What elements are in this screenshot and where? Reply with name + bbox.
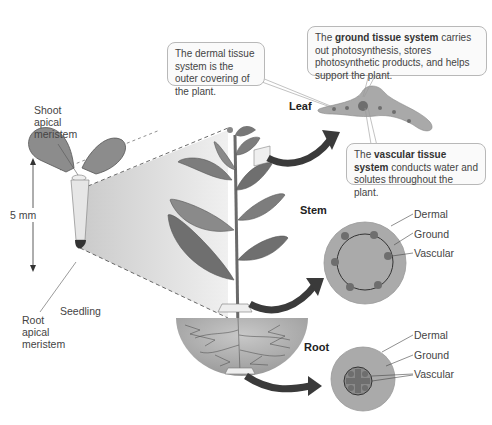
root-ground-label: Ground bbox=[414, 349, 449, 361]
dermal-callout: The dermal tissue system is the outer co… bbox=[167, 42, 265, 86]
stem-label: Stem bbox=[300, 204, 327, 216]
ground-callout: The ground tissue system carries out pho… bbox=[307, 26, 487, 76]
label-line: meristem bbox=[22, 338, 65, 350]
label-line: Shoot bbox=[34, 104, 77, 116]
callout-text: The bbox=[315, 32, 335, 43]
root-dermal-label: Dermal bbox=[414, 329, 448, 341]
label-line: meristem bbox=[34, 128, 77, 140]
label-line: apical bbox=[34, 116, 77, 128]
label-line: apical bbox=[22, 326, 65, 338]
seedling-label: Seedling bbox=[60, 305, 101, 317]
arrow-to-root bbox=[246, 376, 322, 396]
root-label: Root bbox=[304, 341, 329, 353]
stem-vascular-label: Vascular bbox=[414, 247, 454, 259]
leaf-cross-section bbox=[318, 86, 432, 131]
leaf-label: Leaf bbox=[289, 100, 312, 112]
stem-cross-section bbox=[324, 214, 413, 304]
arrow-to-stem bbox=[250, 278, 324, 310]
callout-text: The bbox=[354, 149, 374, 160]
root-system-illustration bbox=[176, 318, 308, 376]
root-apical-meristem-label: Root apical meristem bbox=[22, 314, 65, 350]
scale-label: 5 mm bbox=[10, 208, 36, 222]
shoot-apical-meristem-label: Shoot apical meristem bbox=[34, 104, 77, 140]
vascular-callout: The vascular tissue system conducts wate… bbox=[346, 143, 486, 185]
stem-dermal-label: Dermal bbox=[414, 208, 448, 220]
callout-term: ground tissue system bbox=[335, 32, 438, 43]
stem-ground-label: Ground bbox=[414, 228, 449, 240]
root-vascular-label: Vascular bbox=[414, 368, 454, 380]
arrow-to-leaf bbox=[268, 130, 340, 163]
label-line: Root bbox=[22, 314, 65, 326]
root-cross-section bbox=[331, 335, 413, 411]
